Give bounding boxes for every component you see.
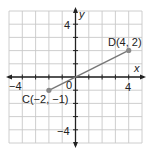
x-axis-label: x <box>133 62 140 74</box>
y-axis-up-arrow-icon <box>73 7 78 13</box>
y-tick-label-pos4: 4 <box>64 19 70 31</box>
x-tick-label-pos4: 4 <box>125 81 131 93</box>
x-tick-label-neg4: −4 <box>9 80 22 92</box>
point-c-label: C(−2, −1) <box>22 93 68 105</box>
y-axis-down-arrow-icon <box>73 142 78 148</box>
point-d <box>126 48 131 53</box>
origin-label: 0 <box>66 79 72 91</box>
x-axis-right-arrow-icon <box>140 75 146 80</box>
y-axis-label: y <box>78 8 86 20</box>
coordinate-plane: x y −4 4 4 −4 0 C(−2, −1) D(4, 2) <box>0 0 151 156</box>
point-d-label: D(4, 2) <box>108 36 142 48</box>
y-tick-label-neg4: −4 <box>57 125 70 137</box>
